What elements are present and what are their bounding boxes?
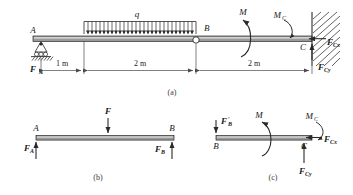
dimension-1m: 1 m xyxy=(44,59,81,71)
beam-a xyxy=(33,36,312,41)
panel-label-c: (c) xyxy=(269,173,278,182)
point-label-c-a: C xyxy=(300,42,307,52)
dimension-label-2m-left: 2 m xyxy=(134,59,147,68)
force-fb-prime-symbol: F xyxy=(220,116,227,126)
reaction-fcy-c-symbol: F xyxy=(298,166,305,176)
reaction-fa-subscript: A xyxy=(38,69,43,75)
statics-figure: q A xyxy=(0,0,353,195)
force-fb-prime-c: F ′ B xyxy=(216,116,232,133)
applied-moment-m-c: M xyxy=(254,110,271,156)
panel-a: q A xyxy=(29,7,340,97)
point-label-a: A xyxy=(29,25,36,35)
reaction-fcx-c-subscript: Cx xyxy=(330,139,337,145)
reaction-fcy-symbol: F xyxy=(317,62,324,72)
reaction-moment-subscript: C xyxy=(282,15,287,21)
applied-moment-m: M xyxy=(238,7,250,57)
support-a-ground-hatch xyxy=(32,57,53,61)
support-a-icon: A xyxy=(29,25,53,61)
reaction-fcx-c-symbol: F xyxy=(323,134,330,144)
reaction-moment-c-subscript: C xyxy=(314,116,319,122)
reaction-moment-symbol: M xyxy=(273,10,282,20)
reaction-fcy-subscript: Cy xyxy=(324,67,331,73)
panel-label-b: (b) xyxy=(93,173,103,182)
dimension-2m-right: 2 m xyxy=(200,59,309,71)
point-label-b-a: B xyxy=(204,23,210,33)
reaction-fb-b-symbol: F xyxy=(154,144,161,154)
reaction-moment-mc: M C xyxy=(273,10,293,38)
reaction-fb-b: F B xyxy=(154,142,172,159)
panel-c: B C F ′ B M M C F xyxy=(213,110,337,182)
hinge-b-icon xyxy=(193,37,199,43)
reaction-fa-b-symbol: F xyxy=(23,143,30,153)
reaction-fcx-subscript: Cx xyxy=(333,42,340,48)
reaction-fa-b-subscript: A xyxy=(29,148,34,154)
panel-b: A B F F A F B (b) xyxy=(23,106,175,182)
dimension-label-2m-right: 2 m xyxy=(248,59,261,68)
distributed-load-q: q xyxy=(84,9,196,34)
beam-b xyxy=(36,136,174,141)
applied-force-f-label: F xyxy=(104,106,111,116)
reaction-moment-c-symbol: M xyxy=(305,111,314,121)
distributed-load-label: q xyxy=(135,9,140,19)
point-label-a-b: A xyxy=(32,123,39,133)
reaction-fb-b-subscript: B xyxy=(160,149,165,155)
dimension-2m-left: 2 m xyxy=(88,59,193,71)
panel-label-a: (a) xyxy=(168,88,177,97)
figure-root: q A xyxy=(0,0,353,195)
dimension-label-1m: 1 m xyxy=(56,59,69,68)
force-fb-prime-subscript: B xyxy=(227,121,232,127)
applied-moment-label: M xyxy=(238,7,247,17)
dimension-lines-a: 1 m 2 m 2 m xyxy=(41,41,312,74)
beam-c xyxy=(216,136,312,141)
distributed-load-arrowheads xyxy=(86,30,194,34)
point-label-b-c: B xyxy=(213,141,219,151)
reaction-fcx-symbol: F xyxy=(326,37,333,47)
applied-moment-label-c: M xyxy=(254,110,263,120)
point-label-b-b: B xyxy=(169,123,175,133)
reaction-fa-symbol: F xyxy=(29,64,36,74)
applied-force-f-b: F xyxy=(104,106,111,133)
reaction-fcy-a: F Cy xyxy=(312,44,331,73)
reaction-fa-b: F A xyxy=(23,142,36,159)
reaction-fcy-c-subscript: Cy xyxy=(305,171,312,177)
